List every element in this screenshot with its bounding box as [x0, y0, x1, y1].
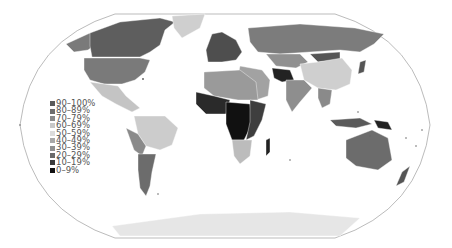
legend-swatch-icon [50, 138, 55, 143]
legend-swatch-icon [50, 131, 55, 136]
legend-swatch-icon [50, 146, 55, 151]
legend-swatch-icon [50, 123, 55, 128]
legend-item: 0–9% [50, 167, 95, 174]
map-legend: 90–100% 80–89% 70–79% 60–69% 50–59% 40–4… [50, 100, 95, 174]
legend-swatch-icon [50, 109, 55, 114]
legend-swatch-icon [50, 153, 55, 158]
legend-swatch-icon [50, 116, 55, 121]
legend-swatch-icon [50, 168, 55, 173]
legend-swatch-icon [50, 160, 55, 165]
legend-swatch-icon [50, 101, 55, 106]
